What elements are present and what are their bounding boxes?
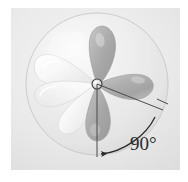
orbital-figure: 90°: [0, 0, 188, 182]
angle-label: 90°: [130, 133, 157, 155]
orbital-scene: [0, 0, 188, 182]
